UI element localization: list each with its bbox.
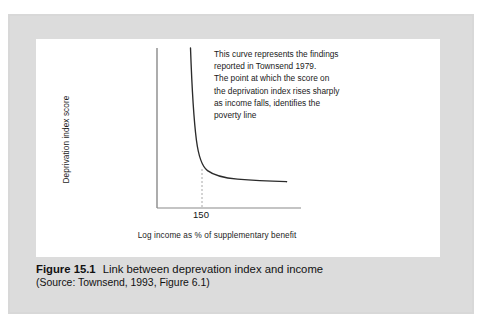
figure-page: Deprivation index score 150 Log income a… — [0, 0, 483, 324]
figure-caption: Figure 15.1Link between deprevation inde… — [36, 262, 456, 290]
annotation-line-4: the deprivation index rises sharply — [214, 85, 419, 97]
chart-area: Deprivation index score 150 Log income a… — [36, 39, 440, 257]
caption-primary-line: Figure 15.1Link between deprevation inde… — [36, 262, 456, 276]
annotation-line-1: This curve represents the findings — [214, 48, 419, 60]
annotation-line-2: reported in Townsend 1979. — [214, 60, 419, 72]
caption-title-text: Link between deprevation index and incom… — [96, 263, 323, 275]
annotation-line-5: as income falls, identifies the — [214, 97, 419, 109]
caption-source-line: (Source: Townsend, 1993, Figure 6.1) — [36, 276, 456, 290]
chart-annotation-text: This curve represents the findings repor… — [214, 48, 419, 121]
x-axis-tick-label-150: 150 — [176, 209, 226, 220]
caption-figure-number: Figure 15.1 — [36, 263, 96, 275]
x-axis-title: Log income as % of supplementary benefit — [92, 231, 342, 240]
y-axis-title: Deprivation index score — [62, 80, 71, 200]
annotation-line-6: poverty line — [214, 109, 419, 121]
figure-white-panel: Deprivation index score 150 Log income a… — [36, 39, 440, 257]
annotation-line-3: The point at which the score on — [214, 72, 419, 84]
